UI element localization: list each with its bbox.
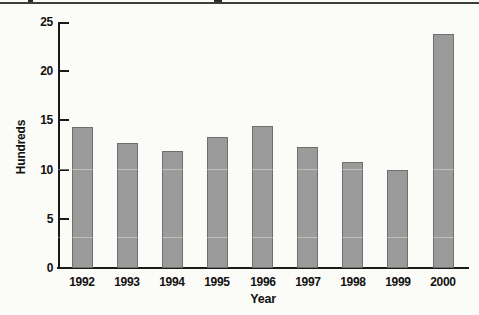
x-tick-label: 2000 <box>421 275 465 289</box>
y-tick <box>60 169 69 171</box>
bar-1995 <box>207 137 228 268</box>
x-axis-title: Year <box>240 292 286 306</box>
bar-2000 <box>433 34 454 268</box>
figure-canvas: Hundreds 0510152025 19921993199419951996… <box>0 0 479 315</box>
x-tick-label: 1997 <box>286 275 330 289</box>
bar-1999 <box>387 170 408 268</box>
y-tick-label: 20 <box>27 65 53 77</box>
y-tick <box>60 119 69 121</box>
bar-1993 <box>117 143 138 268</box>
y-tick-label: 15 <box>27 114 53 126</box>
y-tick-label: 0 <box>27 262 53 274</box>
x-tick-label: 1992 <box>60 275 104 289</box>
x-tick-label: 1998 <box>331 275 375 289</box>
y-tick-label: 25 <box>27 16 53 28</box>
y-axis-line <box>58 22 60 269</box>
bar-1997 <box>297 147 318 268</box>
x-tick-label: 1999 <box>376 275 420 289</box>
x-tick-label: 1996 <box>241 275 285 289</box>
bar-1992 <box>72 127 93 268</box>
x-tick-label: 1995 <box>195 275 239 289</box>
x-tick-label: 1994 <box>150 275 194 289</box>
y-tick-label: 10 <box>27 164 53 176</box>
y-tick-label: 5 <box>27 213 53 225</box>
bar-chart: Hundreds 0510152025 19921993199419951996… <box>0 0 479 315</box>
y-tick <box>60 218 69 220</box>
y-axis-title: Hundreds <box>14 102 28 192</box>
bar-1998 <box>342 162 363 268</box>
y-tick <box>60 70 69 72</box>
y-axis-top-cap <box>58 22 69 24</box>
x-tick-label: 1993 <box>105 275 149 289</box>
bar-1994 <box>162 151 183 268</box>
bar-1996 <box>252 126 273 268</box>
